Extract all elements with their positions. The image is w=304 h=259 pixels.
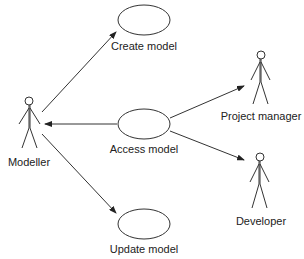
use-case-diagram: Create model Access model Update model M…	[0, 0, 304, 259]
actor-label: Modeller	[8, 156, 51, 168]
use-case-create-model[interactable]: Create model	[111, 5, 177, 52]
use-case-access-model[interactable]: Access model	[110, 109, 178, 155]
association-access-developer	[170, 131, 244, 160]
association-modeller-create	[42, 32, 116, 112]
use-case-label: Update model	[110, 243, 179, 255]
stick-figure-icon	[250, 153, 269, 208]
use-case-update-model[interactable]: Update model	[110, 209, 179, 255]
actor-modeller[interactable]: Modeller	[8, 97, 51, 168]
stick-figure-icon	[19, 97, 40, 148]
use-case-label: Access model	[110, 143, 178, 155]
use-case-label: Create model	[111, 40, 177, 52]
actor-label: Developer	[236, 215, 286, 227]
actor-developer[interactable]: Developer	[236, 153, 286, 227]
stick-figure-icon	[251, 51, 270, 104]
actor-label: Project manager	[221, 110, 302, 122]
association-modeller-update	[42, 134, 116, 213]
actor-project-manager[interactable]: Project manager	[221, 51, 302, 122]
